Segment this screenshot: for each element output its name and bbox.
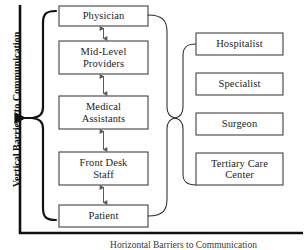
box-specialist[interactable] (196, 73, 283, 95)
box-patient[interactable] (59, 205, 148, 227)
box-front-desk-staff[interactable] (59, 152, 148, 185)
box-mid-level-providers[interactable] (59, 41, 148, 74)
bottom-axis-caption: Horizontal Barriers to Communication (60, 240, 307, 250)
box-hospitalist[interactable] (196, 33, 283, 55)
box-medical-assistants[interactable] (59, 96, 148, 129)
right-column-boxes (196, 33, 283, 185)
box-tertiary-care-center[interactable] (196, 153, 283, 185)
vertical-barriers-brace (25, 11, 56, 220)
connector-left-bundle (148, 15, 175, 216)
box-physician[interactable] (59, 6, 148, 26)
vertical-axis-label: Vertical Barriers to Communication (11, 17, 22, 203)
box-surgeon[interactable] (196, 113, 283, 135)
connector-right-bundle (175, 44, 196, 185)
